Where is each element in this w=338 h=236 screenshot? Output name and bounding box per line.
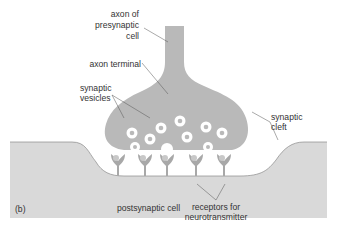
label-axon-presynaptic-1: axon of	[111, 9, 140, 19]
label-receptors-2: neurotransmitter	[185, 212, 248, 222]
label-axon-presynaptic-2: presynaptic	[95, 20, 140, 30]
label-axon-terminal: axon terminal	[89, 59, 141, 69]
label-synaptic-cleft-2: cleft	[271, 122, 287, 132]
label-synaptic-vesicles-1: synaptic	[80, 83, 112, 93]
label-axon-presynaptic-3: cell	[126, 31, 139, 41]
label-postsynaptic-cell: postsynaptic cell	[117, 203, 180, 213]
panel-label: (b)	[15, 204, 26, 214]
receptors	[111, 154, 231, 176]
synapse-diagram: axon of presynaptic cell axon terminal s…	[0, 0, 338, 236]
label-receptors-1: receptors for	[192, 202, 240, 212]
label-synaptic-cleft-1: synaptic	[271, 112, 303, 122]
label-synaptic-vesicles-2: vesicles	[80, 93, 111, 103]
